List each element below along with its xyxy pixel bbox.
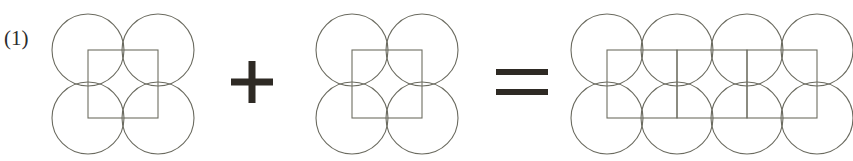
geometry-figure: (1) <box>0 0 853 161</box>
plus-vertical-bar <box>249 61 256 103</box>
figure-label: (1) <box>4 26 29 50</box>
left-term <box>52 14 194 154</box>
equals-operator <box>496 69 548 95</box>
figure-container: (1) <box>0 0 853 161</box>
result-term <box>571 14 853 154</box>
equals-lower-bar <box>496 89 548 95</box>
equals-upper-bar <box>496 69 548 75</box>
plus-operator <box>231 61 273 103</box>
middle-term <box>316 14 458 154</box>
